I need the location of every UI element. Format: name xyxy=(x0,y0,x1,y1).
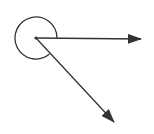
angle-diagram xyxy=(0,0,154,134)
horizontal-ray-arrow xyxy=(36,38,141,39)
vertex-point xyxy=(34,36,37,39)
diagonal-ray-arrow xyxy=(36,38,114,122)
